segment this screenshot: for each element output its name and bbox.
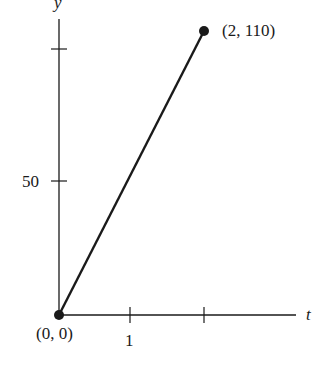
x-axis-label: t [306, 305, 312, 324]
y-tick-label-50: 50 [22, 172, 39, 191]
x-tick-label-1: 1 [125, 331, 134, 350]
endpoint-label: (2, 110) [222, 21, 275, 40]
origin-point [54, 310, 64, 320]
chart: y t 50 1 (0, 0) (2, 110) [0, 0, 333, 366]
data-line [59, 31, 204, 315]
y-axis-label: y [52, 0, 62, 12]
origin-label: (0, 0) [36, 324, 73, 343]
end-point [199, 26, 209, 36]
